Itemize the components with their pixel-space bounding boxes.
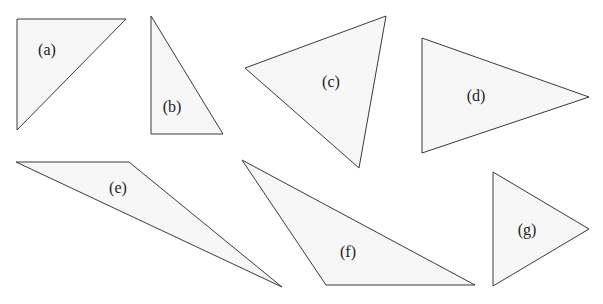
label-d: (d) — [467, 88, 486, 104]
label-b: (b) — [163, 99, 182, 115]
label-f: (f) — [340, 244, 356, 260]
label-g: (g) — [518, 222, 537, 238]
triangle-a — [17, 19, 126, 130]
triangle-g — [493, 172, 589, 286]
triangle-shapes — [0, 0, 603, 304]
label-c: (c) — [322, 74, 340, 90]
triangle-b — [151, 16, 223, 134]
triangle-d — [422, 38, 589, 153]
triangle-diagram: (a) (b) (c) (d) (e) (f) (g) — [0, 0, 603, 304]
label-e: (e) — [109, 180, 127, 196]
triangle-f — [242, 160, 475, 285]
label-a: (a) — [38, 42, 56, 58]
triangle-e — [16, 162, 282, 287]
triangle-c — [245, 16, 386, 168]
